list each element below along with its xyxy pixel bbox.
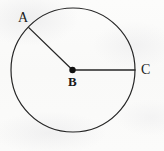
vertex-label-c: C — [141, 63, 150, 77]
radius-line-b-to-a — [29, 28, 73, 70]
center-point-dot — [69, 67, 75, 73]
vertex-label-a: A — [18, 11, 28, 25]
geometry-figure: A B C — [0, 0, 164, 151]
vertex-label-b: B — [68, 75, 77, 88]
